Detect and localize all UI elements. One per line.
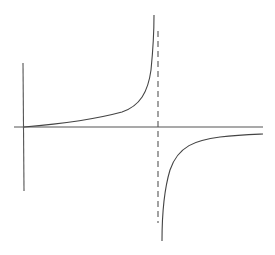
function-graph (0, 0, 275, 255)
